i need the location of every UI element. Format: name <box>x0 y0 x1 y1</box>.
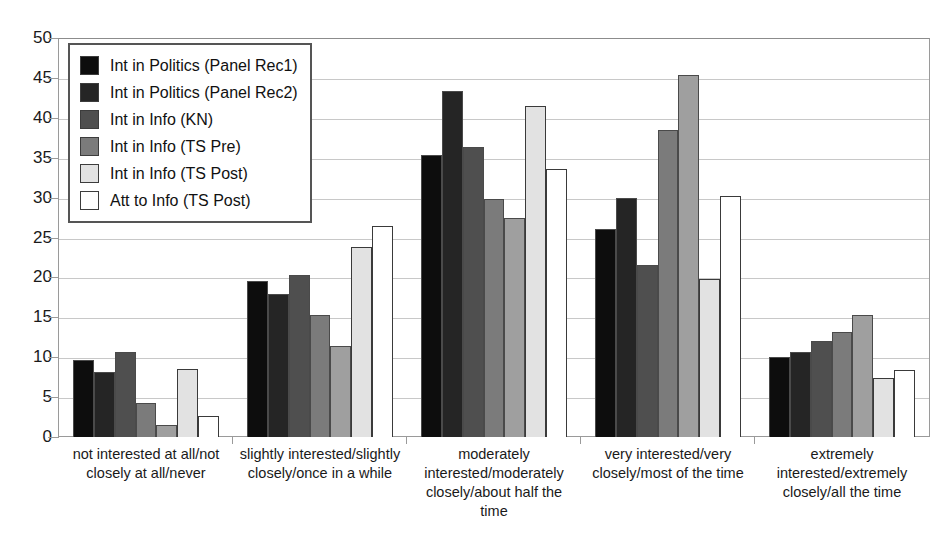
y-axis-tick-label: 20 <box>8 267 52 287</box>
bar[interactable] <box>177 369 198 437</box>
bar[interactable] <box>310 315 331 437</box>
legend-item[interactable]: Int in Info (TS Post) <box>80 160 298 187</box>
bar[interactable] <box>769 357 790 437</box>
legend-item-label: Att to Info (TS Post) <box>110 192 251 210</box>
x-axis-labels: not interested at all/not closely at all… <box>59 445 929 521</box>
legend-swatch-icon <box>80 83 99 102</box>
bar[interactable] <box>832 332 853 437</box>
x-axis-tick <box>580 437 581 444</box>
legend-swatch-icon <box>80 191 99 210</box>
y-axis-tick <box>48 38 58 39</box>
x-axis-category-label: extremely interested/extremely closely/a… <box>755 445 929 521</box>
bar[interactable] <box>289 275 310 437</box>
bar[interactable] <box>115 352 136 437</box>
bar[interactable] <box>372 226 393 437</box>
legend-item-label: Int in Info (KN) <box>110 111 213 129</box>
legend-item-label: Int in Info (TS Post) <box>110 165 248 183</box>
bar[interactable] <box>790 352 811 437</box>
y-axis-tick-label: 5 <box>8 387 52 407</box>
bar[interactable] <box>442 91 463 437</box>
bar[interactable] <box>136 403 157 437</box>
y-axis-tick-label: 35 <box>8 148 52 168</box>
y-axis-tick-label: 45 <box>8 68 52 88</box>
legend-item-label: Int in Info (TS Pre) <box>110 138 241 156</box>
y-axis-tick <box>48 118 58 119</box>
bar[interactable] <box>73 360 94 437</box>
y-axis-tick <box>48 397 58 398</box>
bar[interactable] <box>330 346 351 437</box>
bar[interactable] <box>546 169 567 437</box>
bar[interactable] <box>616 198 637 437</box>
legend-swatch-icon <box>80 164 99 183</box>
bar[interactable] <box>156 425 177 437</box>
bar[interactable] <box>504 218 525 437</box>
bar[interactable] <box>699 279 720 437</box>
legend-item[interactable]: Att to Info (TS Post) <box>80 187 298 214</box>
legend-item-label: Int in Politics (Panel Rec2) <box>110 84 298 102</box>
legend-swatch-icon <box>80 137 99 156</box>
bar[interactable] <box>463 147 484 437</box>
y-axis-tick <box>48 238 58 239</box>
legend-item-label: Int in Politics (Panel Rec1) <box>110 57 298 75</box>
y-axis-tick <box>48 317 58 318</box>
bar[interactable] <box>720 196 741 437</box>
y-axis-tick <box>48 437 58 438</box>
y-axis-tick <box>48 198 58 199</box>
bar[interactable] <box>811 341 832 437</box>
y-axis-tick-label: 40 <box>8 108 52 128</box>
bar[interactable] <box>678 75 699 437</box>
x-axis-tick <box>754 437 755 444</box>
bar-group <box>755 39 929 437</box>
x-axis-category-label: very interested/very closely/most of the… <box>581 445 755 521</box>
legend-item[interactable]: Int in Politics (Panel Rec1) <box>80 52 298 79</box>
y-axis-tick-label: 30 <box>8 188 52 208</box>
bar[interactable] <box>894 370 915 437</box>
bar[interactable] <box>198 416 219 437</box>
bar-group <box>581 39 755 437</box>
y-axis-tick <box>48 78 58 79</box>
legend-item[interactable]: Int in Politics (Panel Rec2) <box>80 79 298 106</box>
y-axis-tick <box>48 277 58 278</box>
bar-group-bars <box>769 39 915 437</box>
legend-swatch-icon <box>80 110 99 129</box>
x-axis-category-label: not interested at all/not closely at all… <box>59 445 233 521</box>
y-axis-labels: 05101520253035404550 <box>0 0 52 543</box>
y-axis-tick-label: 50 <box>8 28 52 48</box>
bar[interactable] <box>873 378 894 437</box>
x-axis-category-label: moderately interested/moderately closely… <box>407 445 581 521</box>
y-axis-tick-label: 10 <box>8 347 52 367</box>
legend-swatch-icon <box>80 56 99 75</box>
bar[interactable] <box>658 130 679 437</box>
chart-legend: Int in Politics (Panel Rec1)Int in Polit… <box>68 43 312 223</box>
bar-group <box>407 39 581 437</box>
bar[interactable] <box>421 155 442 437</box>
y-axis-tick-label: 0 <box>8 427 52 447</box>
y-axis-tick <box>48 158 58 159</box>
x-axis-tick <box>406 437 407 444</box>
bar[interactable] <box>268 294 289 437</box>
bar[interactable] <box>484 199 505 437</box>
bar[interactable] <box>351 247 372 437</box>
bar[interactable] <box>94 372 115 437</box>
y-axis-tick-label: 25 <box>8 228 52 248</box>
y-axis-tick <box>48 357 58 358</box>
bar[interactable] <box>247 281 268 437</box>
x-axis-category-label: slightly interested/slightly closely/onc… <box>233 445 407 521</box>
y-axis-tick-label: 15 <box>8 307 52 327</box>
bar[interactable] <box>595 229 616 437</box>
bar[interactable] <box>852 315 873 437</box>
bar[interactable] <box>637 265 658 437</box>
legend-item[interactable]: Int in Info (KN) <box>80 106 298 133</box>
bar[interactable] <box>525 106 546 437</box>
legend-item[interactable]: Int in Info (TS Pre) <box>80 133 298 160</box>
bar-chart: 05101520253035404550 not interested at a… <box>0 0 950 543</box>
bar-group-bars <box>421 39 567 437</box>
bar-group-bars <box>595 39 741 437</box>
x-axis-tick <box>232 437 233 444</box>
